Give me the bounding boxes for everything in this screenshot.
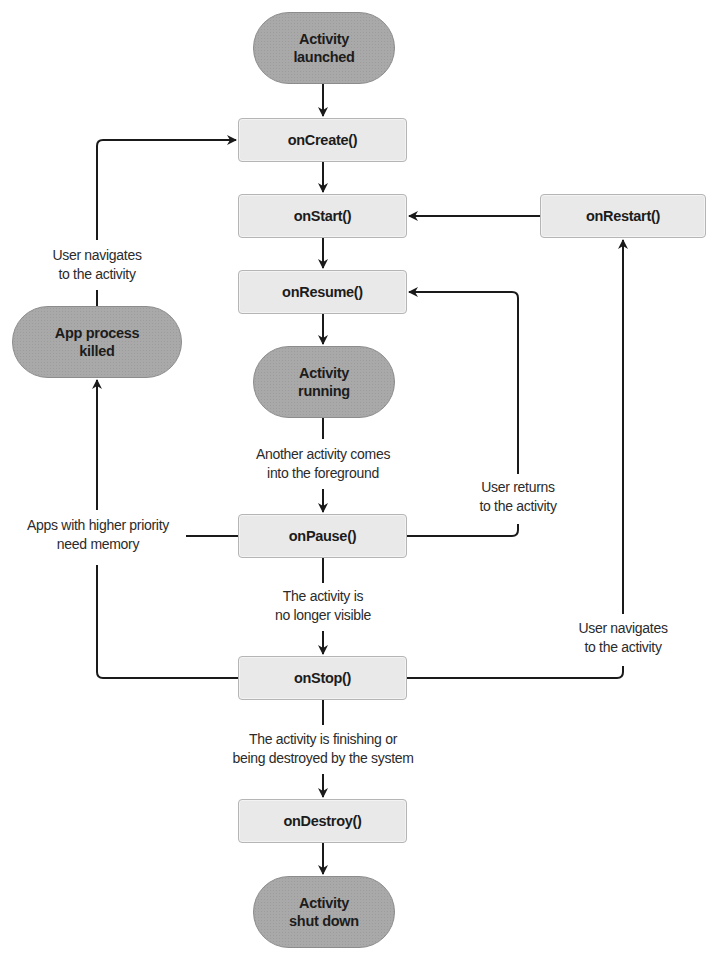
edge-label-user-navigates-right: User navigates to the activity bbox=[568, 619, 678, 657]
state-label: launched bbox=[293, 48, 354, 66]
method-label: onResume() bbox=[282, 283, 363, 301]
state-label: Activity bbox=[299, 894, 349, 912]
edge-label-line: The activity is finishing or bbox=[203, 730, 443, 749]
method-on-resume: onResume() bbox=[238, 270, 407, 314]
state-label: Activity bbox=[299, 30, 349, 48]
method-on-destroy: onDestroy() bbox=[238, 799, 407, 843]
state-label: App process bbox=[55, 324, 140, 342]
method-on-stop: onStop() bbox=[238, 656, 407, 700]
method-on-pause: onPause() bbox=[238, 514, 407, 558]
edge-label-finishing: The activity is finishing or being destr… bbox=[203, 730, 443, 768]
edge-label-line: User navigates bbox=[568, 619, 678, 638]
edge-label-line: being destroyed by the system bbox=[203, 749, 443, 768]
edge-label-line: User navigates bbox=[42, 246, 152, 265]
method-on-restart: onRestart() bbox=[540, 194, 706, 238]
state-label: Activity bbox=[299, 364, 349, 382]
method-label: onStart() bbox=[294, 207, 352, 225]
edge-label-another-activity: Another activity comes into the foregrou… bbox=[223, 445, 423, 483]
state-activity-launched: Activity launched bbox=[253, 12, 395, 84]
state-app-process-killed: App process killed bbox=[12, 306, 182, 378]
edge-label-user-returns: User returns to the activity bbox=[468, 478, 568, 516]
edge-label-higher-priority: Apps with higher priority need memory bbox=[10, 516, 186, 554]
edge-label-line: to the activity bbox=[42, 265, 152, 284]
edge-label-line: Apps with higher priority bbox=[10, 516, 186, 535]
state-label: killed bbox=[79, 342, 114, 360]
edge-label-line: The activity is bbox=[223, 587, 423, 606]
method-label: onRestart() bbox=[586, 207, 660, 225]
edge-label-line: to the activity bbox=[568, 638, 678, 657]
method-label: onDestroy() bbox=[283, 812, 361, 830]
edge-label-line: need memory bbox=[10, 535, 186, 554]
state-activity-running: Activity running bbox=[253, 346, 395, 418]
edge-label-line: to the activity bbox=[468, 497, 568, 516]
edge-label-line: User returns bbox=[468, 478, 568, 497]
method-label: onStop() bbox=[294, 669, 351, 687]
edge-label-line: Another activity comes bbox=[223, 445, 423, 464]
edge-label-line: into the foreground bbox=[223, 464, 423, 483]
state-activity-shut-down: Activity shut down bbox=[253, 876, 395, 948]
edge-label-line: no longer visible bbox=[223, 606, 423, 625]
state-label: running bbox=[298, 382, 350, 400]
method-label: onPause() bbox=[289, 527, 356, 545]
edge-label-not-visible: The activity is no longer visible bbox=[223, 587, 423, 625]
method-on-start: onStart() bbox=[238, 194, 407, 238]
method-on-create: onCreate() bbox=[238, 118, 407, 162]
edge-label-user-navigates-left: User navigates to the activity bbox=[42, 246, 152, 284]
state-label: shut down bbox=[289, 912, 359, 930]
method-label: onCreate() bbox=[288, 131, 358, 149]
